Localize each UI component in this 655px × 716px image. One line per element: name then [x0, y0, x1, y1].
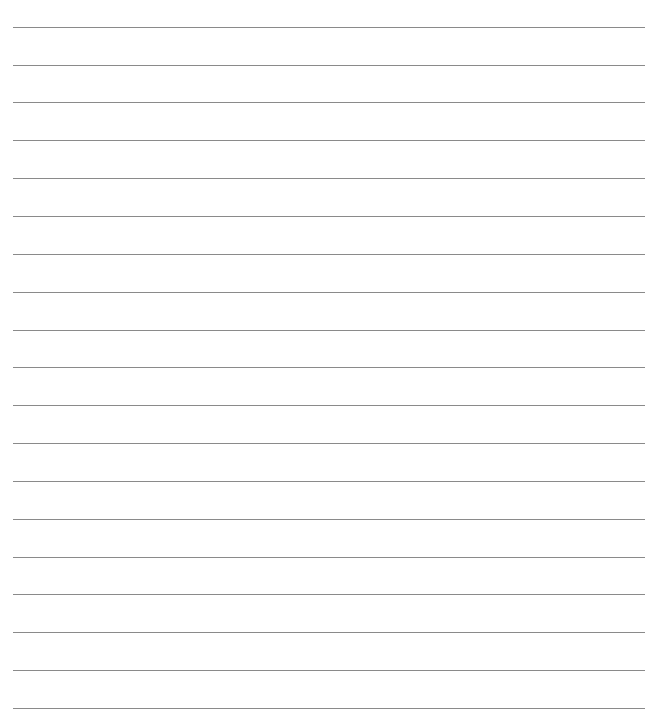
ruled-line [13, 481, 645, 482]
ruled-line [13, 178, 645, 179]
ruled-line [13, 632, 645, 633]
ruled-line [13, 670, 645, 671]
ruled-line [13, 292, 645, 293]
ruled-line [13, 519, 645, 520]
ruled-line [13, 708, 645, 709]
ruled-line [13, 330, 645, 331]
ruled-line [13, 557, 645, 558]
ruled-line [13, 367, 645, 368]
ruled-line [13, 102, 645, 103]
ruled-line [13, 27, 645, 28]
ruled-line [13, 216, 645, 217]
ruled-line [13, 65, 645, 66]
ruled-line [13, 140, 645, 141]
ruled-line [13, 594, 645, 595]
ruled-line [13, 254, 645, 255]
lined-paper-page [0, 0, 655, 716]
ruled-line [13, 405, 645, 406]
ruled-line [13, 443, 645, 444]
